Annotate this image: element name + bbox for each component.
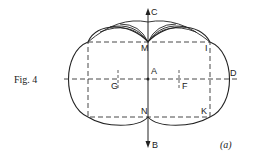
arrow-down-icon — [146, 141, 151, 148]
center-point — [147, 78, 150, 81]
label-d: D — [230, 68, 237, 78]
label-m: M — [141, 43, 149, 53]
label-g: G — [111, 81, 118, 91]
cap-arcs — [88, 21, 210, 42]
label-n: N — [141, 106, 148, 116]
arrow-up-icon — [146, 8, 151, 15]
figure-title: Fig. 4 — [14, 74, 37, 85]
label-i: I — [205, 43, 208, 53]
label-f: F — [182, 81, 188, 91]
label-b: B — [152, 140, 158, 150]
label-a: A — [151, 66, 157, 76]
figure-caption: (a) — [220, 139, 232, 151]
label-k: K — [201, 106, 207, 116]
figure-diagram: Fig. 4 C M I A D G F N K B (a) — [0, 0, 264, 158]
label-c: C — [151, 7, 158, 17]
